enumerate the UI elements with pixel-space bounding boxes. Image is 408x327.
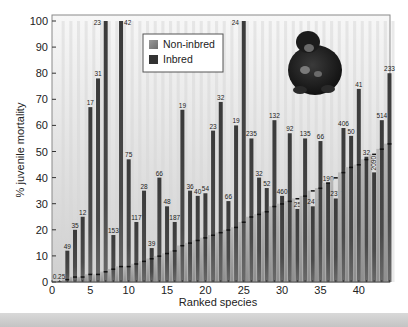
- bar-sample-size-label: 35: [71, 222, 79, 229]
- x-tick-label: 35: [314, 284, 326, 296]
- non-inbred-marker: [134, 263, 138, 265]
- non-inbred-marker: [180, 245, 184, 247]
- inbred-bar: [318, 141, 322, 282]
- y-tick-label: 70: [36, 93, 48, 105]
- x-tick-label: 10: [123, 284, 135, 296]
- non-inbred-bar: [231, 227, 234, 282]
- inbred-bar: [104, 21, 108, 282]
- bar-sample-size-label: 48: [163, 198, 171, 205]
- bar-sample-size-label: 406: [338, 120, 349, 127]
- non-inbred-bar: [292, 198, 295, 282]
- non-inbred-marker: [88, 274, 92, 276]
- bar-sample-size-label: 50: [348, 128, 356, 135]
- non-inbred-bar: [246, 217, 249, 282]
- bar-sample-size-label: 23: [94, 19, 102, 26]
- inbred-bar: [173, 222, 177, 282]
- x-tick-label: 40: [353, 284, 365, 296]
- bar-sample-size-label: 187: [169, 214, 180, 221]
- non-inbred-marker: [219, 232, 223, 234]
- non-inbred-bar: [146, 259, 149, 282]
- non-inbred-bar: [123, 266, 126, 282]
- bar-sample-size-label: 40: [194, 188, 202, 195]
- inbred-bar: [364, 157, 368, 282]
- non-inbred-marker: [119, 266, 123, 268]
- bar-sample-size-label: 42: [124, 19, 132, 26]
- inbred-bar: [249, 138, 253, 282]
- y-tick-label: 20: [36, 224, 48, 236]
- inbred-bar: [180, 110, 184, 282]
- bar-sample-size-label: 31: [94, 70, 102, 77]
- non-inbred-bar: [131, 264, 134, 282]
- y-tick-label: 100: [30, 15, 48, 27]
- non-inbred-bar: [277, 204, 280, 282]
- non-inbred-bar: [261, 212, 264, 282]
- non-inbred-bar: [361, 159, 364, 282]
- inbred-bar: [73, 230, 77, 282]
- inbred-bar: [88, 107, 92, 282]
- legend-label-inbred: Inbred: [163, 53, 193, 65]
- non-inbred-bar: [108, 269, 111, 282]
- legend: Non-inbred Inbred: [143, 34, 223, 72]
- footer-band: [0, 313, 408, 327]
- non-inbred-bar: [177, 245, 180, 282]
- non-inbred-marker: [272, 206, 276, 208]
- bar-sample-size-label: 132: [269, 112, 280, 119]
- inbred-bar: [127, 159, 131, 282]
- x-tick-label: 5: [87, 284, 93, 296]
- non-inbred-bar: [223, 230, 226, 282]
- x-tick-label: 25: [238, 284, 250, 296]
- non-inbred-marker: [380, 148, 384, 150]
- non-inbred-marker: [234, 227, 238, 229]
- non-inbred-marker: [288, 201, 292, 203]
- bar-sample-size-label: 52: [263, 180, 271, 187]
- inbred-bar: [211, 131, 215, 282]
- y-tick-label: 10: [36, 250, 48, 262]
- inbred-bar: [380, 120, 384, 282]
- non-inbred-bar: [154, 256, 157, 282]
- x-tick-label: 20: [199, 284, 211, 296]
- non-inbred-bar: [369, 154, 372, 282]
- non-inbred-bar: [315, 188, 318, 282]
- non-inbred-marker: [334, 177, 338, 179]
- non-inbred-bar: [323, 183, 326, 282]
- bar-sample-size-label: 0.25: [53, 273, 66, 280]
- non-inbred-bar: [100, 272, 103, 282]
- bar-sample-size-label: 49: [64, 243, 72, 250]
- inbred-bar: [81, 217, 85, 282]
- y-tick-label: 80: [36, 67, 48, 79]
- non-inbred-bar: [162, 253, 165, 282]
- non-inbred-marker: [111, 268, 115, 270]
- non-inbred-bar: [77, 277, 80, 282]
- non-inbred-marker: [318, 188, 322, 190]
- non-inbred-marker: [165, 253, 169, 255]
- bar-sample-size-label: 233: [384, 65, 395, 72]
- y-tick-label: 50: [36, 146, 48, 158]
- inbred-bar: [311, 206, 315, 282]
- bar-sample-size-label: 19: [179, 102, 187, 109]
- bar-sample-size-label: 66: [317, 133, 325, 140]
- inbred-bar: [357, 89, 361, 282]
- x-tick-label: 0: [49, 284, 55, 296]
- y-tick-label: 0: [42, 276, 48, 288]
- bar-sample-size-label: 235: [246, 130, 257, 137]
- non-inbred-marker: [242, 221, 246, 223]
- inbred-bar: [303, 138, 307, 282]
- bar-sample-size-label: 514: [376, 112, 387, 119]
- bar-sample-size-label: 2090: [370, 156, 377, 171]
- non-inbred-marker: [364, 159, 368, 161]
- inbred-bar: [280, 196, 284, 282]
- non-inbred-marker: [188, 242, 192, 244]
- non-inbred-marker: [372, 154, 376, 156]
- non-inbred-marker: [257, 214, 261, 216]
- bar-sample-size-label: 66: [156, 170, 164, 177]
- non-inbred-bar: [192, 240, 195, 282]
- bar-sample-size-label: 135: [300, 130, 311, 137]
- non-inbred-bar: [284, 201, 287, 282]
- legend-swatch-non-inbred: [149, 40, 158, 49]
- non-inbred-bar: [269, 206, 272, 282]
- y-tick-label: 30: [36, 198, 48, 210]
- inbred-bar: [257, 178, 261, 282]
- y-tick-label: 60: [36, 119, 48, 131]
- inbred-bar: [341, 128, 345, 282]
- non-inbred-bar: [169, 251, 172, 282]
